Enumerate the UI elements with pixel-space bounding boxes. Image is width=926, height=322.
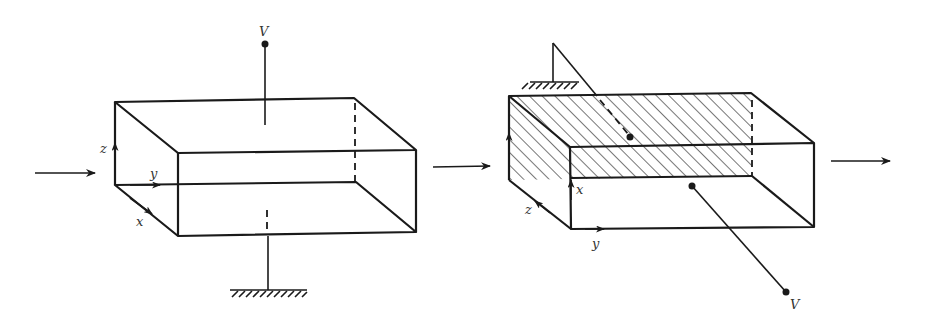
svg-text:x: x: [136, 214, 144, 229]
diagram-canvas: V z y x: [0, 0, 926, 322]
z-axis-arrow: [535, 201, 550, 213]
ground-lead: [553, 43, 597, 96]
ground-icon: [522, 82, 579, 89]
x-axis-arrow: [130, 198, 152, 214]
voltage-lead: [692, 186, 786, 292]
ground-contact-dot: [627, 134, 634, 141]
left-waveguide-figure: V z y x: [35, 24, 416, 297]
voltage-label: V: [790, 297, 801, 312]
voltage-label: V: [259, 24, 270, 39]
voltage-terminal-dot: [783, 289, 790, 296]
bottom-plate: [115, 182, 416, 236]
ground-icon: [230, 290, 307, 297]
transition-arrow: [433, 166, 490, 167]
svg-text:y: y: [591, 236, 600, 251]
svg-text:y: y: [149, 166, 158, 181]
voltage-terminal-dot: [262, 41, 269, 48]
svg-text:x: x: [576, 182, 584, 197]
svg-text:z: z: [524, 202, 532, 217]
svg-text:z: z: [99, 141, 107, 156]
right-waveguide-figure: V x z y: [509, 43, 890, 312]
